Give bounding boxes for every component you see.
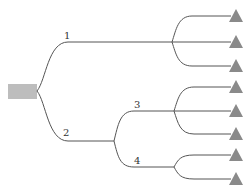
edge-1a <box>172 16 231 42</box>
branch-label-4: 4 <box>134 155 140 166</box>
branch-label-1: 1 <box>64 30 70 41</box>
leaf-triangle-3 <box>229 59 243 72</box>
edge-3 <box>114 111 174 141</box>
leaf-triangle-7 <box>229 148 243 161</box>
branch-label-3: 3 <box>134 99 140 110</box>
leaf-triangle-8 <box>229 172 243 185</box>
edge-1 <box>37 42 172 91</box>
edge-4 <box>114 141 174 167</box>
leaf-triangle-6 <box>229 127 243 140</box>
edge-4a <box>174 155 231 167</box>
edge-4b <box>174 167 231 179</box>
branch-label-2: 2 <box>63 127 69 138</box>
leaf-triangle-1 <box>229 9 243 22</box>
leaf-triangle-4 <box>229 80 243 93</box>
tree-diagram: 1 2 3 4 <box>0 0 251 192</box>
edge-1c <box>172 42 231 66</box>
edge-2 <box>37 91 114 141</box>
root-node <box>8 84 37 99</box>
edge-3a <box>174 87 231 111</box>
edge-3c <box>174 111 231 134</box>
leaf-triangle-2 <box>229 35 243 48</box>
leaf-triangle-5 <box>229 104 243 117</box>
